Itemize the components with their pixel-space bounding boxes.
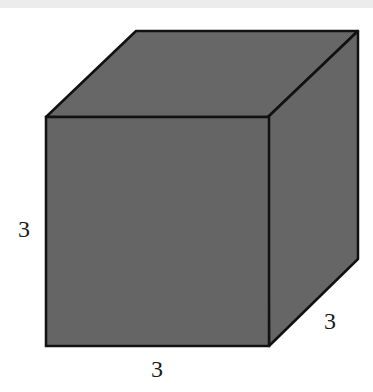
cube-front-face: [46, 117, 269, 346]
width-label: 3: [151, 356, 163, 382]
cube-diagram: 3 3 3: [0, 0, 373, 392]
height-label: 3: [18, 216, 30, 242]
depth-label: 3: [324, 308, 336, 334]
